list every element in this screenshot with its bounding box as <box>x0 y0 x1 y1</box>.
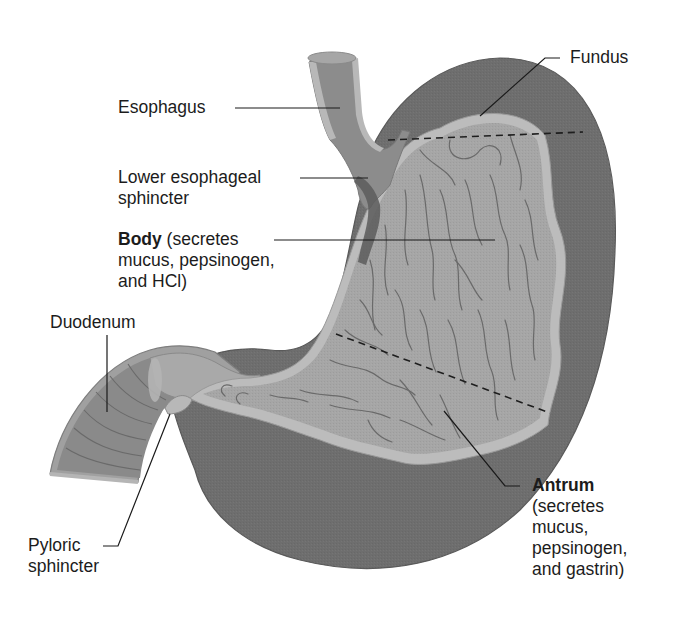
label-fundus-text: Fundus <box>570 47 628 68</box>
label-fundus: Fundus <box>570 47 628 68</box>
label-body-line2: mucus, pepsinogen, <box>118 250 275 271</box>
label-antrum-line4: pepsinogen, <box>532 538 627 559</box>
label-body-title: Body <box>118 229 162 249</box>
label-antrum-line2: (secretes <box>532 496 627 517</box>
label-antrum-title: Antrum <box>532 475 594 495</box>
esophagus-opening <box>308 52 356 64</box>
label-esophagus: Esophagus <box>118 97 206 118</box>
label-duodenum: Duodenum <box>50 312 136 333</box>
label-body-line1: (secretes <box>162 229 239 249</box>
label-antrum: Antrum (secretes mucus, pepsinogen, and … <box>532 475 627 580</box>
label-pyloric-sphincter: Pyloric sphincter <box>28 535 99 577</box>
label-esophagus-text: Esophagus <box>118 97 206 118</box>
label-les-line1: Lower esophageal <box>118 167 261 188</box>
label-duodenum-text: Duodenum <box>50 312 136 333</box>
label-antrum-line5: and gastrin) <box>532 559 627 580</box>
label-pyloric-line2: sphincter <box>28 556 99 577</box>
label-les-line2: sphincter <box>118 188 261 209</box>
label-body: Body (secretes mucus, pepsinogen, and HC… <box>118 229 275 292</box>
label-body-line3: and HCl) <box>118 271 275 292</box>
label-pyloric-line1: Pyloric <box>28 535 99 556</box>
label-lower-esophageal-sphincter: Lower esophageal sphincter <box>118 167 261 209</box>
label-antrum-line3: mucus, <box>532 517 627 538</box>
